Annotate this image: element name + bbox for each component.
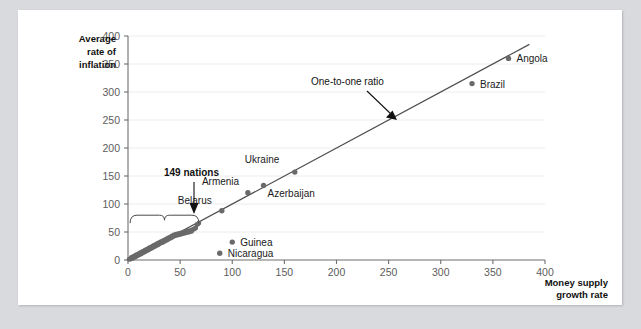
chart-svg: 050100150200250300350400 050100150200250… [18, 10, 622, 305]
point-label-nicaragua: Nicaragua [228, 248, 274, 259]
x-axis-title-line1: Money supply [545, 277, 609, 288]
y-tick-label: 150 [102, 170, 120, 182]
nations-annotation-label: 149 nations [164, 167, 219, 178]
nations-arrow-head [190, 203, 199, 214]
data-point-guinea [230, 239, 235, 244]
ratio-annotation-label: One-to-one ratio [311, 76, 384, 87]
y-tick-label: 300 [102, 86, 120, 98]
y-tick-label: 200 [102, 142, 120, 154]
data-point-armenia [245, 190, 250, 195]
data-point-angola [506, 56, 511, 61]
point-label-guinea: Guinea [240, 237, 273, 248]
x-tick-label: 350 [484, 266, 502, 278]
ratio-arrow-head [386, 111, 397, 121]
scatter-chart: 050100150200250300350400 050100150200250… [18, 10, 622, 305]
point-label-azerbaijan: Azerbaijan [268, 188, 315, 199]
ratio-arrow-shaft [367, 91, 392, 115]
point-label-brazil: Brazil [480, 79, 505, 90]
x-tick-label: 50 [174, 266, 186, 278]
y-axis-title-line3: inflation [79, 59, 116, 70]
y-tick-label: 50 [108, 226, 120, 238]
figure-panel: 050100150200250300350400 050100150200250… [18, 10, 622, 305]
point-label-ukraine: Ukraine [245, 154, 280, 165]
x-tick-label: 200 [328, 266, 346, 278]
y-tick-label: 100 [102, 198, 120, 210]
data-point-brazil [469, 81, 474, 86]
cluster-brace [130, 215, 199, 223]
brace-shape [130, 215, 199, 223]
x-axis-ticks: 050100150200250300350400 [125, 260, 554, 278]
data-point-azerbaijan [261, 183, 266, 188]
x-tick-label: 250 [380, 266, 398, 278]
ratio-annotation: One-to-one ratio [311, 76, 397, 120]
data-point-belarus [219, 208, 224, 213]
x-tick-label: 0 [125, 266, 131, 278]
y-tick-label: 0 [114, 254, 120, 266]
x-tick-label: 150 [276, 266, 294, 278]
y-axis-title-line1: Average [79, 33, 116, 44]
nations-annotation: 149 nations [164, 167, 219, 214]
data-point-nicaragua [217, 251, 222, 256]
x-tick-label: 300 [432, 266, 450, 278]
x-tick-label: 100 [223, 266, 241, 278]
point-label-angola: Angola [517, 53, 549, 64]
y-axis-title-line2: rate of [87, 46, 117, 57]
data-point-ukraine [292, 169, 297, 174]
x-axis-title-line2: growth rate [556, 289, 608, 300]
y-tick-label: 250 [102, 114, 120, 126]
